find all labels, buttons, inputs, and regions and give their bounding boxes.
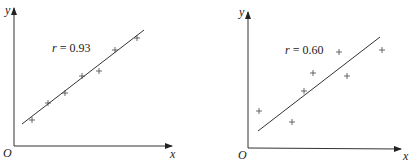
scatter-figures: y x O r = 0.93 y x O r = 0.60	[0, 0, 410, 165]
right-x-axis	[248, 148, 401, 149]
left-r-annotation: r = 0.93	[52, 41, 90, 55]
right-x-axis-label: x	[402, 149, 409, 163]
right-r-annotation: r = 0.60	[285, 43, 323, 57]
left-x-axis-label: x	[169, 147, 176, 161]
right-scatter-chart: y x O r = 0.60	[238, 5, 409, 163]
left-origin-label: O	[3, 146, 12, 160]
right-data-points	[256, 47, 385, 125]
left-y-axis-label: y	[4, 3, 11, 17]
right-origin-label: O	[238, 148, 247, 162]
left-scatter-chart: y x O r = 0.93	[3, 3, 176, 161]
right-y-axis-label: y	[238, 5, 245, 19]
